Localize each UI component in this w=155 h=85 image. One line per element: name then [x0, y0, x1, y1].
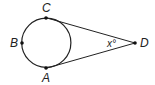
- point-b: [20, 41, 24, 45]
- point-label-a: A: [41, 71, 50, 85]
- point-label-c: C: [42, 1, 51, 15]
- circle: [22, 18, 71, 67]
- point-a: [44, 66, 48, 70]
- point-c: [44, 16, 48, 20]
- point-d: [133, 41, 137, 45]
- tangent-circle-diagram: CBAD x°: [0, 0, 155, 85]
- tangent-segment-da: [47, 43, 135, 68]
- point-label-d: D: [140, 36, 149, 50]
- tangent-segment-dc: [47, 18, 135, 43]
- point-label-b: B: [10, 36, 18, 50]
- angle-label-x: x°: [106, 38, 116, 49]
